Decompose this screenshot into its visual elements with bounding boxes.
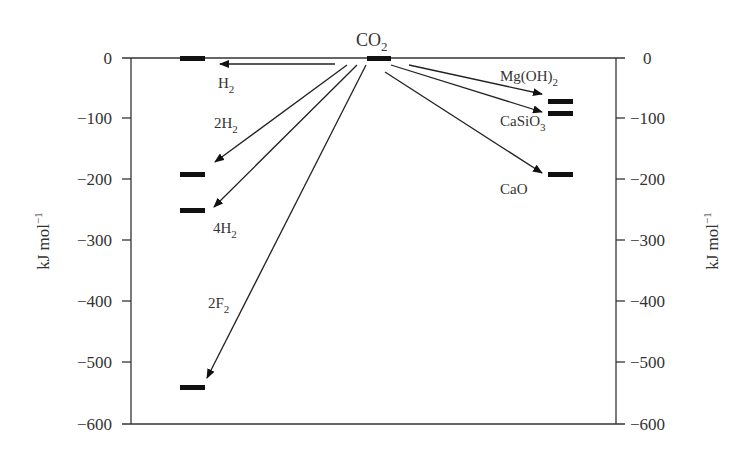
right-axis-title: kJ mol−1 <box>701 212 722 270</box>
right-tick-200: −200 <box>630 170 665 189</box>
label-h2: H2 <box>218 75 234 95</box>
right-tick-labels: 0 −100 −200 −300 −400 −500 −600 <box>630 49 665 434</box>
label-2h2: 2H2 <box>214 115 238 135</box>
right-tick-600: −600 <box>630 415 665 434</box>
energy-diagram: 0 −100 −200 −300 −400 −500 −600 0 −100 −… <box>0 0 747 458</box>
right-tick-100: −100 <box>630 109 665 128</box>
arrow-to-4h2 <box>214 65 357 207</box>
level-co2 <box>367 56 391 61</box>
left-tick-400: −400 <box>77 292 112 311</box>
left-tick-0: 0 <box>104 49 113 68</box>
right-tick-300: −300 <box>630 231 665 250</box>
left-tick-500: −500 <box>77 353 112 372</box>
right-tick-500: −500 <box>630 353 665 372</box>
left-tick-200: −200 <box>77 170 112 189</box>
level-casio3 <box>548 111 573 116</box>
left-axis-title: kJ mol−1 <box>32 212 53 270</box>
right-tick-400: −400 <box>630 292 665 311</box>
label-2f2: 2F2 <box>208 295 229 315</box>
level-2h2 <box>180 172 205 177</box>
right-axis-ticks <box>616 118 625 362</box>
left-tick-300: −300 <box>77 231 112 250</box>
label-casio3: CaSiO3 <box>500 113 546 133</box>
left-tick-100: −100 <box>77 109 112 128</box>
left-tick-labels: 0 −100 −200 −300 −400 −500 −600 <box>77 49 112 434</box>
label-4h2: 4H2 <box>213 220 237 240</box>
level-2f2 <box>180 385 205 390</box>
label-mgoh2: Mg(OH)2 <box>500 68 558 88</box>
level-mgoh2 <box>548 99 573 104</box>
level-cao <box>548 172 573 177</box>
left-axis-ticks <box>122 118 131 362</box>
reaction-arrows <box>207 64 542 378</box>
label-co2: CO2 <box>356 30 388 54</box>
energy-levels <box>180 56 573 390</box>
level-h2 <box>180 56 205 61</box>
label-cao: CaO <box>500 181 528 197</box>
level-4h2 <box>180 208 205 213</box>
left-tick-600: −600 <box>77 415 112 434</box>
right-tick-0: 0 <box>643 49 652 68</box>
arrow-to-2h2 <box>215 65 347 162</box>
